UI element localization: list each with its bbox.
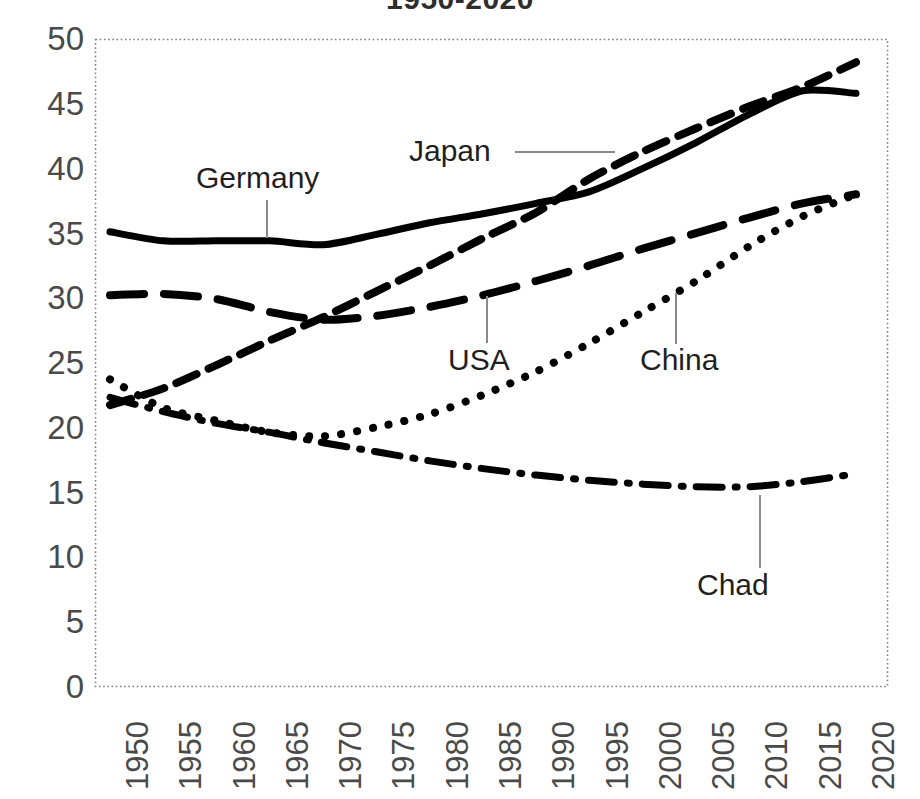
x-tick-1985: 1985 [495,721,526,790]
x-tick-1980: 1980 [442,721,473,790]
plot-area [0,0,920,799]
series-label-chad: Chad [697,570,769,600]
series-line-china [110,194,856,436]
series-label-china: China [640,345,718,375]
x-tick-1965: 1965 [282,721,313,790]
x-tick-1950: 1950 [122,721,153,790]
series-layer [110,62,856,487]
x-tick-2005: 2005 [708,721,739,790]
x-tick-1990: 1990 [548,721,579,790]
series-label-germany: Germany [196,163,319,193]
series-label-japan: Japan [409,136,491,166]
x-tick-1995: 1995 [602,721,633,790]
x-tick-2010: 2010 [761,721,792,790]
series-line-chad [110,397,856,487]
x-tick-2000: 2000 [655,721,686,790]
x-tick-1975: 1975 [388,721,419,790]
series-label-usa: USA [448,345,510,375]
x-tick-1955: 1955 [175,721,206,790]
x-tick-1960: 1960 [229,721,260,790]
x-tick-1970: 1970 [335,721,366,790]
x-tick-2015: 2015 [815,721,846,790]
x-tick-2020: 2020 [868,721,899,790]
line-chart: 1950-2020 50 45 40 35 30 25 20 15 10 5 0… [0,0,920,799]
